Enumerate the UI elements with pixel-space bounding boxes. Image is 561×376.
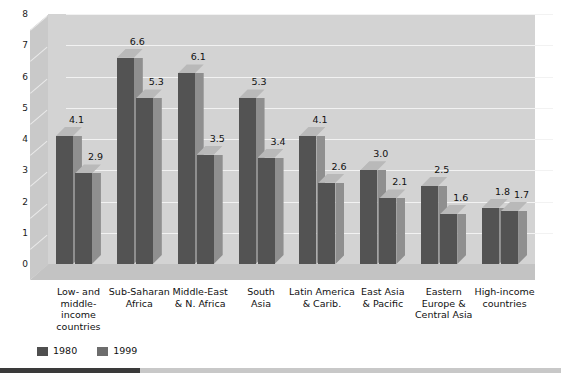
category-label-line: Asia [227, 298, 296, 310]
y-axis-tick-label: 0 [2, 260, 28, 269]
category-label-line: & Carib. [288, 298, 357, 310]
category-label-line: Middle-East [166, 286, 235, 298]
y-axis-tick-label: 8 [2, 10, 28, 19]
bar-front-face [379, 198, 396, 264]
bar-1-1980 [117, 49, 134, 264]
bar-front-face [482, 208, 499, 264]
bar-front-face [440, 214, 457, 264]
side-gridlines [30, 14, 49, 280]
bar-top-face [258, 149, 284, 158]
bar-side-face [275, 158, 284, 264]
category-label-line: Sub-Saharan [105, 286, 174, 298]
legend-item-1999: 1999 [97, 346, 137, 356]
bar-top-face [56, 127, 82, 136]
bar-side-face [396, 198, 405, 264]
category-label-line: & N. Africa [166, 298, 235, 310]
bar-value-label: 3.0 [368, 149, 393, 159]
bar-side-face [153, 98, 162, 264]
bar-value-label: 4.1 [64, 115, 89, 125]
bar-4-1980 [299, 127, 316, 264]
bar-front-face [197, 155, 214, 264]
bar-value-label: 3.4 [266, 137, 291, 147]
bar-value-label: 4.1 [307, 115, 332, 125]
bar-top-face [421, 177, 447, 186]
bar-top-face [239, 89, 265, 98]
side-gridline [30, 47, 47, 62]
legend-item-1980: 1980 [37, 346, 77, 356]
category-label-line: Europe & [409, 298, 478, 310]
category-label-line: Low- and [44, 286, 113, 298]
bar-side-face [92, 173, 101, 264]
bar-top-face [299, 127, 325, 136]
category-label: East Asia& Pacific [348, 286, 417, 309]
category-label-line: income [44, 309, 113, 321]
bar-chart-figure: 876543210 4.12.96.65.36.13.55.33.44.12.6… [0, 0, 561, 376]
bar-front-face [258, 158, 275, 264]
plot-side-wall [30, 14, 49, 280]
bar-value-label: 2.1 [387, 177, 412, 187]
bar-top-face [379, 189, 405, 198]
category-label: EasternEurope &Central Asia [409, 286, 478, 321]
bar-7-1999 [501, 202, 518, 264]
category-label-line: Eastern [409, 286, 478, 298]
bar-6-1980 [421, 177, 438, 264]
chart-legend: 19801999 [37, 345, 157, 357]
bar-top-face [178, 64, 204, 73]
y-axis: 876543210 [0, 14, 28, 280]
legend-swatch [97, 347, 108, 356]
category-label: Low- andmiddle-incomecountries [44, 286, 113, 332]
bar-1-1999 [136, 89, 153, 264]
side-gridline [30, 141, 47, 156]
bar-front-face [117, 58, 134, 264]
category-label-line: High-income [470, 286, 539, 298]
category-label: SouthAsia [227, 286, 296, 309]
category-label: Middle-East& N. Africa [166, 286, 235, 309]
bar-top-face [360, 161, 386, 170]
category-label: Sub-SaharanAfrica [105, 286, 174, 309]
category-label-line: countries [44, 321, 113, 333]
bar-side-face [518, 211, 527, 264]
y-axis-tick-label: 3 [2, 166, 28, 175]
bar-2-1980 [178, 64, 195, 264]
bar-value-label: 2.9 [83, 152, 108, 162]
bar-front-face [501, 211, 518, 264]
category-label-line: Latin America [288, 286, 357, 298]
bar-top-face [318, 174, 344, 183]
y-axis-tick-label: 6 [2, 73, 28, 82]
y-axis-tick-label: 2 [2, 198, 28, 207]
bar-front-face [299, 136, 316, 264]
side-gridline [30, 78, 47, 93]
bar-front-face [75, 173, 92, 264]
side-gridline [30, 235, 47, 250]
bar-5-1999 [379, 189, 396, 264]
bar-value-label: 2.6 [326, 162, 351, 172]
bar-7-1980 [482, 199, 499, 264]
bar-front-face [239, 98, 256, 264]
side-gridline [30, 203, 47, 218]
bar-top-face [440, 205, 466, 214]
y-axis-tick-label: 5 [2, 104, 28, 113]
bar-front-face [178, 73, 195, 264]
bar-front-face [318, 183, 335, 264]
bar-value-label: 3.5 [205, 134, 230, 144]
bar-4-1999 [318, 174, 335, 264]
legend-swatch [37, 347, 48, 356]
bar-side-face [457, 214, 466, 264]
bar-front-face [360, 170, 377, 264]
bar-side-face [214, 155, 223, 264]
side-gridline [30, 16, 47, 31]
bar-front-face [421, 186, 438, 264]
y-axis-tick-label: 7 [2, 41, 28, 50]
bar-0-1999 [75, 164, 92, 264]
bar-6-1999 [440, 205, 457, 264]
bar-0-1980 [56, 127, 73, 264]
bar-2-1999 [197, 146, 214, 264]
x-axis-category-labels: Low- andmiddle-incomecountriesSub-Sahara… [48, 286, 535, 344]
bar-top-face [136, 89, 162, 98]
bar-3-1980 [239, 89, 256, 264]
bar-series-container: 4.12.96.65.36.13.55.33.44.12.63.02.12.51… [48, 14, 535, 264]
category-label-line: Africa [105, 298, 174, 310]
category-label-line: Central Asia [409, 309, 478, 321]
category-label-line: East Asia [348, 286, 417, 298]
y-axis-tick-label: 1 [2, 229, 28, 238]
